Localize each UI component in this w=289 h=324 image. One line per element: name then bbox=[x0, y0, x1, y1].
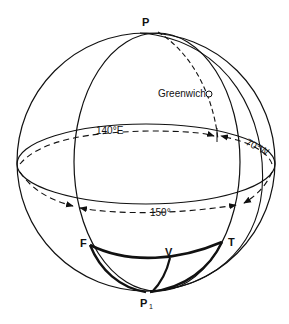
label-150: 150° bbox=[150, 207, 171, 218]
sphere-diagram: P Greenwich 140°E 70°W 150° F T V P 1 bbox=[0, 0, 289, 324]
label-p: P bbox=[142, 16, 149, 28]
label-t: T bbox=[228, 236, 235, 248]
meridian-v-p1 bbox=[152, 258, 170, 292]
label-greenwich: Greenwich bbox=[158, 88, 206, 99]
label-140e: 140°E bbox=[96, 125, 124, 136]
label-v: V bbox=[165, 246, 173, 258]
equator bbox=[17, 124, 275, 204]
greenwich-marker[interactable] bbox=[206, 91, 212, 97]
label-p1-subscript: 1 bbox=[149, 303, 153, 310]
greenwich-meridian bbox=[158, 32, 218, 140]
meridian-f-p1 bbox=[90, 245, 146, 292]
label-p1: P bbox=[140, 297, 147, 309]
label-f: F bbox=[80, 237, 87, 249]
great-circle-track bbox=[90, 242, 222, 258]
meridian-70w bbox=[140, 33, 263, 291]
label-70w: 70°W bbox=[244, 136, 271, 158]
